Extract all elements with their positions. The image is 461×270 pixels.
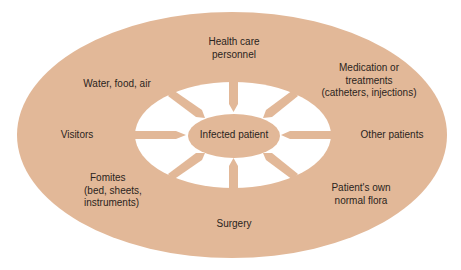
label-line: Patient's own — [316, 182, 406, 195]
arrow-left-icon — [133, 131, 186, 139]
label-line: treatments — [310, 75, 428, 88]
label-other-patients: Other patients — [352, 129, 432, 142]
label-water-food-air: Water, food, air — [74, 78, 160, 91]
label-line: Medication or — [310, 62, 428, 75]
label-health-care-personnel: Health care personnel — [186, 36, 282, 61]
label-fomites: Fomites (bed, sheets, instruments) — [84, 172, 154, 210]
label-surgery: Surgery — [204, 218, 264, 231]
label-line: Fomites — [84, 172, 154, 185]
label-line: personnel — [186, 49, 282, 62]
label-line: Health care — [186, 36, 282, 49]
arrow-right-icon — [281, 131, 334, 139]
label-line: instruments) — [84, 197, 154, 210]
label-line: (bed, sheets, — [84, 185, 154, 198]
label-normal-flora: Patient's own normal flora — [316, 182, 406, 207]
label-visitors: Visitors — [52, 129, 102, 142]
center-label: Infected patient — [188, 129, 280, 142]
label-line: normal flora — [316, 195, 406, 208]
label-medication: Medication or treatments (catheters, inj… — [310, 62, 428, 100]
label-line: (catheters, injections) — [310, 87, 428, 100]
